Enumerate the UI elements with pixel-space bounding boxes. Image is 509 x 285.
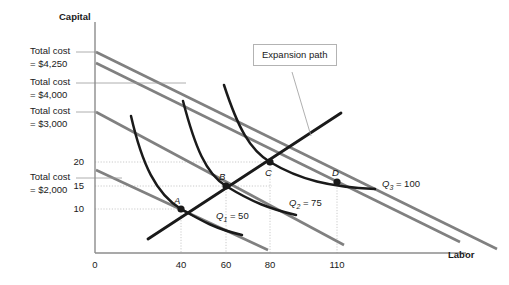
q3-value: = 100 (396, 178, 420, 189)
y-tick-10: 10 (64, 203, 84, 214)
cost-label-3000: Total cost = $3,000 (30, 105, 70, 130)
point-label-a: A (174, 195, 180, 206)
cost-label-4000: Total cost = $4,000 (30, 76, 70, 101)
expansion-path-callout: Expansion path (253, 44, 337, 66)
q1-subscript: 1 (223, 216, 227, 223)
expansion-callout-leader (292, 72, 311, 136)
point-label-d: D (332, 167, 339, 178)
isocost-lines (96, 52, 497, 250)
isoquant-label-q1: Q1 = 50 (216, 210, 249, 223)
x-tick-110: 110 (325, 259, 349, 270)
q3-subscript: 3 (389, 184, 393, 191)
x-tick-60: 60 (214, 259, 238, 270)
q1-value: = 50 (230, 210, 249, 221)
y-tick-20: 20 (64, 156, 84, 167)
point-b-marker (222, 182, 229, 189)
x-tick-80: 80 (258, 259, 282, 270)
plot-canvas (0, 0, 509, 285)
isoquant-label-q2: Q2 = 75 (289, 197, 322, 210)
x-tick-40: 40 (169, 259, 193, 270)
q2-value: = 75 (303, 197, 322, 208)
isoquant-isocost-figure: Capital Labor 20 15 10 0 40 60 80 110 To… (0, 0, 509, 285)
cost-label-2000: Total cost = $2,000 (30, 171, 70, 196)
cost-4250-line1: Total cost (30, 45, 70, 56)
cost-3000-line2: = $3,000 (30, 118, 67, 129)
x-tick-0: 0 (83, 259, 107, 270)
cost-label-4250: Total cost = $4,250 (30, 45, 70, 70)
cost-2000-line1: Total cost (30, 171, 70, 182)
point-d-marker (333, 178, 340, 185)
cost-4000-line2: = $4,000 (30, 89, 67, 100)
cost-4000-line1: Total cost (30, 76, 70, 87)
q2-subscript: 2 (296, 203, 300, 210)
point-a-marker (177, 205, 184, 212)
point-label-c: C (265, 167, 272, 178)
cost-3000-line1: Total cost (30, 105, 70, 116)
cost-2000-line2: = $2,000 (30, 184, 67, 195)
y-axis-title: Capital (59, 11, 91, 22)
point-label-b: B (219, 171, 225, 182)
x-axis-title: Labor (448, 249, 474, 260)
isoquant-label-q3: Q3 = 100 (382, 178, 420, 191)
point-c-marker (266, 158, 273, 165)
cost-4250-line2: = $4,250 (30, 58, 67, 69)
isoquant-q2-curve (183, 101, 296, 215)
